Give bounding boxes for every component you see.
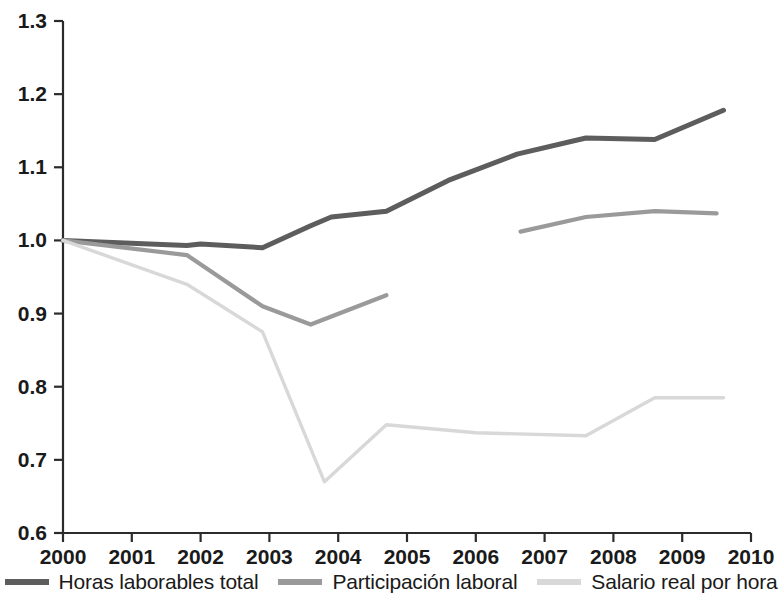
- legend-swatch-participacion-laboral: [278, 579, 322, 585]
- legend-item-participacion-laboral: Participación laboral: [278, 570, 517, 594]
- y-tick-1-2: 1.2: [18, 82, 47, 105]
- y-tick-0-7: 0.7: [18, 448, 47, 471]
- series-line-participaci-n-laboral-seg2: [521, 211, 717, 231]
- y-tick-0-9: 0.9: [18, 302, 47, 325]
- y-axis-tick-labels: 0.60.70.80.91.01.11.21.3: [18, 9, 48, 544]
- chart-axes: [54, 21, 751, 542]
- chart-legend: Horas laborables total Participación lab…: [0, 563, 782, 601]
- legend-item-horas-laborables-total: Horas laborables total: [5, 570, 259, 594]
- series-line-horas-laborables-total: [63, 110, 723, 248]
- y-tick-1-0: 1.0: [18, 228, 47, 251]
- legend-swatch-horas-laborables-total: [5, 579, 49, 585]
- legend-swatch-salario-real-por-hora: [537, 579, 581, 585]
- legend-item-salario-real-por-hora: Salario real por hora: [537, 570, 777, 594]
- legend-label-horas-laborables-total: Horas laborables total: [59, 570, 259, 594]
- y-tick-1-1: 1.1: [18, 155, 48, 178]
- y-tick-1-3: 1.3: [18, 9, 47, 32]
- legend-label-salario-real-por-hora: Salario real por hora: [591, 570, 777, 594]
- series-line-participaci-n-laboral-seg1: [63, 240, 386, 324]
- line-chart: 0.60.70.80.91.01.11.21.3 200020012002200…: [0, 0, 782, 601]
- y-tick-0-8: 0.8: [18, 375, 48, 398]
- series-line-salario-real-por-hora: [63, 240, 723, 481]
- legend-label-participacion-laboral: Participación laboral: [332, 570, 517, 594]
- y-tick-0-6: 0.6: [18, 521, 47, 544]
- chart-plot-area: 0.60.70.80.91.01.11.21.3 200020012002200…: [0, 0, 782, 601]
- chart-series-lines: [63, 110, 723, 482]
